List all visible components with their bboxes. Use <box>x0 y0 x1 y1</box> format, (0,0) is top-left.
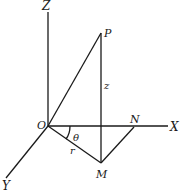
segment-mn <box>101 127 134 163</box>
label-point-n: N <box>129 113 140 126</box>
label-y-axis: Y <box>2 179 11 191</box>
label-point-m: M <box>95 168 108 181</box>
label-x-axis: X <box>169 120 179 134</box>
segment-op <box>48 33 101 126</box>
y-axis <box>6 126 48 178</box>
label-z-axis: Z <box>41 0 51 13</box>
angle-arc <box>66 126 70 139</box>
label-height-z: z <box>103 80 110 91</box>
label-angle-theta: θ <box>73 132 79 143</box>
cylindrical-coordinates-diagram: Z X Y O P M N z r θ <box>0 0 181 191</box>
label-radius-r: r <box>70 145 76 156</box>
label-point-p: P <box>103 27 112 40</box>
label-origin: O <box>37 119 46 132</box>
